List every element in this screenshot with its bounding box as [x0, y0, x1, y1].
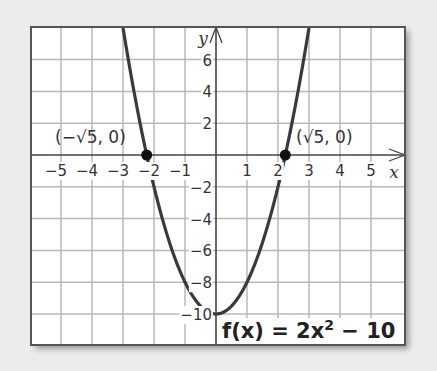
x-tick-label: −2	[138, 162, 160, 180]
x-tick-label: −1	[169, 162, 191, 180]
x-tick-label: 5	[366, 162, 376, 180]
x-tick-label: 2	[273, 162, 283, 180]
intercept-point	[141, 150, 152, 161]
plot-background	[31, 27, 405, 345]
x-tick-label: 1	[242, 162, 252, 180]
x-tick-label: −4	[76, 162, 98, 180]
y-tick-label: −4	[190, 211, 212, 229]
x-tick-label: −3	[107, 162, 129, 180]
y-tick-label: −10	[180, 306, 212, 324]
y-axis-label: y	[197, 28, 208, 48]
y-tick-label: −2	[190, 179, 212, 197]
y-tick-label: 6	[202, 52, 212, 70]
y-tick-label: 2	[202, 115, 212, 133]
y-tick-label: −8	[190, 274, 212, 292]
x-tick-label: 3	[304, 162, 314, 180]
x-tick-label: 4	[335, 162, 345, 180]
x-axis-label: x	[389, 162, 399, 182]
point-label-positive: (√5, 0)	[296, 127, 353, 147]
intercept-point	[280, 150, 291, 161]
graph-figure: −5−4−3−2−112345642−2−4−6−8−10 xy(−√5, 0)…	[0, 0, 437, 371]
function-label: f(x) = 2x2 − 10	[222, 317, 395, 343]
x-tick-label: −5	[45, 162, 67, 180]
y-tick-label: −6	[190, 242, 212, 260]
y-tick-label: 4	[202, 83, 212, 101]
point-label-negative: (−√5, 0)	[55, 127, 126, 147]
